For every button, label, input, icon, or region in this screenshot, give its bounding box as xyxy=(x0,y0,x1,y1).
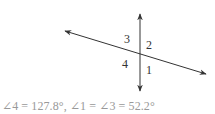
angle-label-2: 2 xyxy=(146,39,152,51)
angle-label-3: 3 xyxy=(124,33,130,45)
angle-label-1: 1 xyxy=(146,64,152,76)
transversal-line xyxy=(65,31,206,74)
angle-label-4: 4 xyxy=(122,58,128,70)
diagram-canvas xyxy=(0,0,215,114)
angle-caption: ∠4 = 127.8°, ∠1 = ∠3 = 52.2° xyxy=(2,99,155,114)
